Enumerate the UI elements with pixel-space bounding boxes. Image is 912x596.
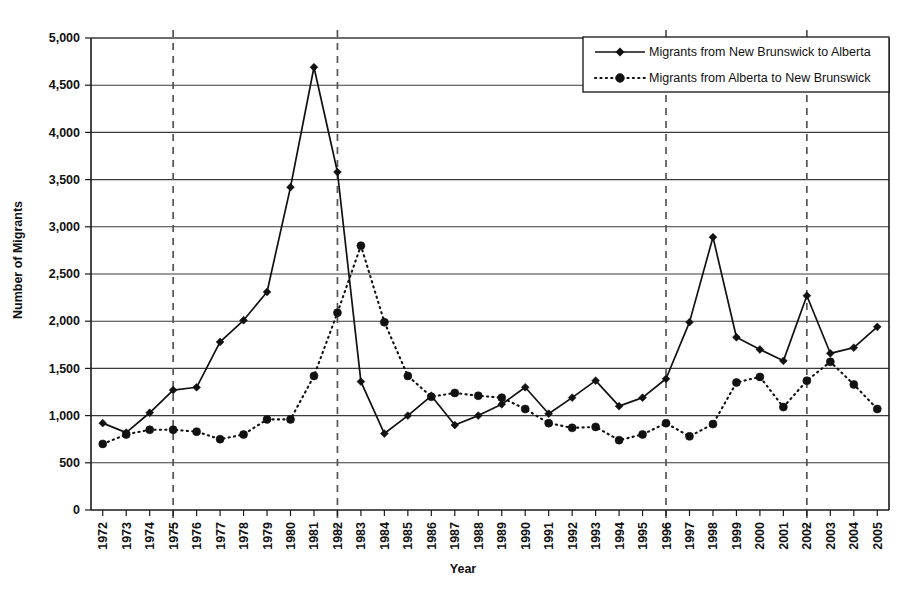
data-point[interactable] <box>169 426 177 434</box>
data-point[interactable] <box>709 420 717 428</box>
data-point[interactable] <box>333 309 341 317</box>
data-point[interactable] <box>733 333 741 341</box>
data-point[interactable] <box>474 412 482 420</box>
data-point[interactable] <box>568 424 576 432</box>
x-tick-label: 1981 <box>307 522 321 550</box>
legend-label-0: Migrants from New Brunswick to Alberta <box>649 45 871 59</box>
legend-label-1: Migrants from Alberta to New Brunswick <box>649 71 871 85</box>
x-tick-label: 1994 <box>613 522 627 550</box>
data-point[interactable] <box>850 380 858 388</box>
data-point[interactable] <box>592 423 600 431</box>
data-point[interactable] <box>146 426 154 434</box>
data-point[interactable] <box>709 233 717 241</box>
y-tick-label: 3,000 <box>49 220 80 234</box>
x-tick-label: 1997 <box>683 522 697 550</box>
x-tick-label: 1999 <box>730 522 744 550</box>
data-point[interactable] <box>380 318 388 326</box>
data-point[interactable] <box>287 415 295 423</box>
x-tick-label: 1991 <box>542 522 556 550</box>
x-tick-label: 1986 <box>425 522 439 550</box>
y-tick-label: 1,000 <box>49 409 80 423</box>
x-tick-label: 1989 <box>495 522 509 550</box>
x-tick-label: 1975 <box>167 522 181 550</box>
data-point[interactable] <box>803 377 811 385</box>
data-point[interactable] <box>779 403 787 411</box>
series-layer <box>99 63 882 448</box>
data-point[interactable] <box>193 428 201 436</box>
chart-legend: Migrants from New Brunswick to AlbertaMi… <box>583 37 889 92</box>
y-tick-label: 4,500 <box>49 78 80 92</box>
axis-titles: YearNumber of Migrants <box>11 201 476 576</box>
data-point[interactable] <box>357 378 365 386</box>
x-tick-label: 1978 <box>237 522 251 550</box>
x-tick-label: 2005 <box>871 522 885 550</box>
x-tick-label: 1995 <box>636 522 650 550</box>
data-point[interactable] <box>122 430 130 438</box>
data-point[interactable] <box>474 392 482 400</box>
data-point[interactable] <box>99 440 107 448</box>
y-tick-label: 3,500 <box>49 173 80 187</box>
data-point[interactable] <box>615 436 623 444</box>
x-axis-title: Year <box>450 562 477 576</box>
data-point[interactable] <box>498 394 506 402</box>
x-tick-label: 1977 <box>214 522 228 550</box>
data-point[interactable] <box>639 430 647 438</box>
data-point[interactable] <box>310 372 318 380</box>
data-point[interactable] <box>732 379 740 387</box>
x-tick-label: 1983 <box>354 522 368 550</box>
y-tick-label: 5,000 <box>49 31 80 45</box>
x-tick-label: 1982 <box>331 522 345 550</box>
x-tick-label: 1990 <box>519 522 533 550</box>
y-tick-label: 0 <box>73 503 80 517</box>
data-point[interactable] <box>334 168 342 176</box>
data-point[interactable] <box>756 373 764 381</box>
y-tick-label: 4,000 <box>49 126 80 140</box>
x-tick-label: 2002 <box>800 522 814 550</box>
data-point[interactable] <box>803 292 811 300</box>
data-point[interactable] <box>427 393 435 401</box>
x-tick-label: 1985 <box>401 522 415 550</box>
xtick-labels: 1972197319741975197619771978197919801981… <box>96 522 885 550</box>
data-point[interactable] <box>99 419 107 427</box>
data-point[interactable] <box>521 405 529 413</box>
x-tick-label: 1998 <box>706 522 720 550</box>
data-point[interactable] <box>779 357 787 365</box>
chart-container: 05001,0001,5002,0002,5003,0003,5004,0004… <box>0 0 912 596</box>
data-point[interactable] <box>662 419 670 427</box>
x-tick-label: 1996 <box>660 522 674 550</box>
x-tick-label: 1979 <box>261 522 275 550</box>
x-tick-label: 2001 <box>777 522 791 550</box>
data-point[interactable] <box>193 383 201 391</box>
x-tick-label: 2003 <box>824 522 838 550</box>
data-point[interactable] <box>404 372 412 380</box>
data-point[interactable] <box>545 419 553 427</box>
data-point[interactable] <box>826 349 834 357</box>
x-tick-label: 1988 <box>472 522 486 550</box>
axes-layer <box>85 38 889 516</box>
x-tick-label: 1987 <box>448 522 462 550</box>
y-axis-title: Number of Migrants <box>11 201 25 319</box>
data-point[interactable] <box>357 242 365 250</box>
data-point[interactable] <box>873 405 881 413</box>
x-tick-label: 1992 <box>566 522 580 550</box>
y-tick-label: 2,000 <box>49 314 80 328</box>
ytick-labels: 05001,0001,5002,0002,5003,0003,5004,0004… <box>49 31 80 517</box>
data-point[interactable] <box>686 318 694 326</box>
x-tick-label: 1976 <box>190 522 204 550</box>
data-point[interactable] <box>216 435 224 443</box>
data-point[interactable] <box>263 415 271 423</box>
y-tick-label: 500 <box>59 456 80 470</box>
migration-line-chart: 05001,0001,5002,0002,5003,0003,5004,0004… <box>0 0 912 596</box>
gridlines-layer <box>91 38 889 463</box>
data-point[interactable] <box>686 432 694 440</box>
data-point[interactable] <box>826 358 834 366</box>
data-point[interactable] <box>310 63 318 71</box>
y-tick-label: 1,500 <box>49 362 80 376</box>
data-point[interactable] <box>240 430 248 438</box>
x-tick-label: 2000 <box>753 522 767 550</box>
data-point[interactable] <box>287 183 295 191</box>
x-tick-label: 1972 <box>96 522 110 550</box>
data-point[interactable] <box>451 389 459 397</box>
data-point[interactable] <box>756 346 764 354</box>
x-tick-label: 1984 <box>378 522 392 550</box>
